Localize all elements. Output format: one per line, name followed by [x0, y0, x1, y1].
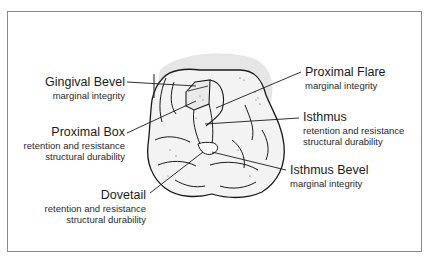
label-gingival-bevel: Gingival Bevel marginal integrity	[45, 76, 125, 100]
label-description: marginal integrity	[45, 91, 125, 101]
label-description: retention and resistance	[24, 141, 125, 151]
label-description: marginal integrity	[305, 81, 386, 91]
label-isthmus: Isthmus retention and resistance structu…	[303, 111, 404, 147]
label-isthmus-bevel: Isthmus Bevel marginal integrity	[290, 164, 369, 188]
label-proximal-box: Proximal Box retention and resistance st…	[24, 126, 125, 162]
label-title: Gingival Bevel	[45, 76, 125, 89]
label-description: structural durability	[24, 152, 125, 162]
label-title: Proximal Flare	[305, 66, 386, 79]
label-dovetail: Dovetail retention and resistance struct…	[45, 189, 146, 225]
label-description: marginal integrity	[290, 179, 369, 189]
label-proximal-flare: Proximal Flare marginal integrity	[305, 66, 386, 90]
label-title: Isthmus Bevel	[290, 164, 369, 177]
label-description: structural durability	[45, 215, 146, 225]
label-description: retention and resistance	[303, 126, 404, 136]
label-description: retention and resistance	[45, 204, 146, 214]
label-title: Dovetail	[45, 189, 146, 202]
label-title: Isthmus	[303, 111, 404, 124]
label-title: Proximal Box	[24, 126, 125, 139]
label-description: structural durability	[303, 137, 404, 147]
